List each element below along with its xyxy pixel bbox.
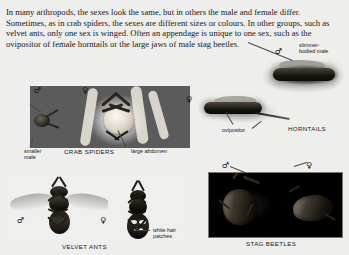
female-symbol-stag-beetle: ♀ — [306, 162, 312, 170]
caption-stag-beetles: STAG BEETLES — [246, 240, 296, 247]
velvet-ant-female-photo — [108, 176, 188, 246]
caption-velvet-ants: VELVET ANTS — [62, 243, 107, 250]
male-symbol-horntail: ♂ — [275, 48, 282, 56]
crab-spiders-photo — [30, 86, 190, 148]
female-symbol-crab-spider: ♀ — [82, 87, 88, 95]
stag-beetles-photo — [208, 172, 343, 238]
horntail-male-photo — [243, 48, 349, 94]
male-symbol-velvet-ant: ♂ — [17, 217, 24, 225]
caption-horntails: HORNTAILS — [288, 125, 326, 132]
caption-crab-spiders: CRAB SPIDERS — [64, 148, 114, 155]
label-slimmer-male-line2: bodied male — [299, 48, 328, 54]
male-symbol-crab-spider: ♂ — [34, 87, 41, 95]
female-symbol-velvet-ant: ♀ — [100, 217, 106, 225]
horntail-female-body — [204, 102, 262, 114]
male-symbol-stag-beetle: ♂ — [222, 162, 229, 170]
label-white-hair-line2: patches — [153, 233, 172, 239]
velvet-ant-male-photo — [8, 176, 112, 242]
body-copy: In many arthropods, the sexes look the s… — [6, 7, 342, 49]
label-large-abdomen: large abdomen — [131, 148, 167, 154]
velvet-ant-female-background — [108, 176, 188, 246]
figure-page: In many arthropods, the sexes look the s… — [0, 0, 349, 255]
body-copy-text: In many arthropods, the sexes look the s… — [6, 7, 342, 49]
label-ovipositor: ovipositor — [222, 127, 245, 133]
label-smaller-male-line2: male — [24, 154, 36, 160]
leader-line-white-hair — [136, 230, 150, 231]
female-symbol-horntail: ♀ — [186, 96, 192, 104]
horntail-male-body — [273, 68, 335, 81]
